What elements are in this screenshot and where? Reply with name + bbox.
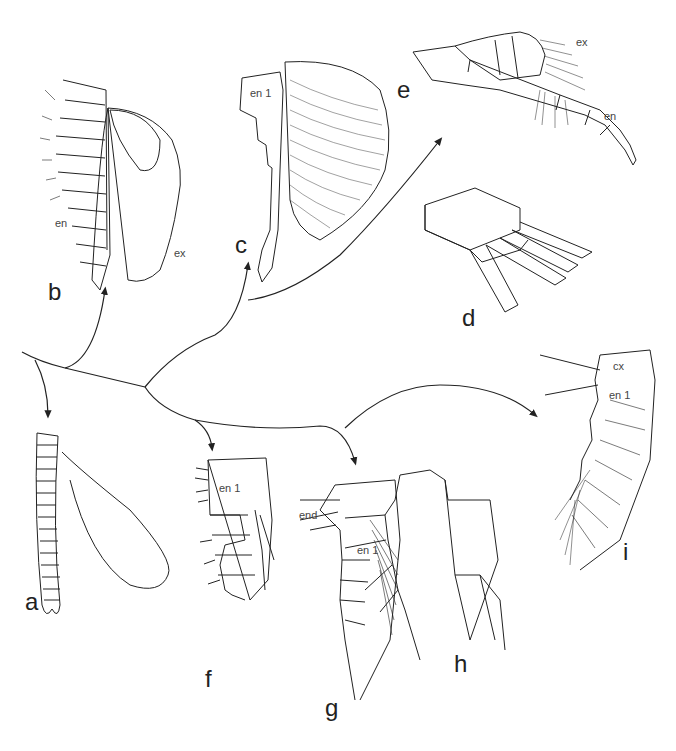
phylogeny-tree bbox=[22, 140, 535, 462]
figure-drawing bbox=[0, 0, 676, 751]
panel-a-drawing bbox=[36, 433, 169, 614]
part-label-i-en1: en 1 bbox=[609, 390, 630, 401]
panel-label-g: g bbox=[325, 696, 338, 720]
part-label-b-ex: ex bbox=[174, 248, 186, 259]
part-label-b-en: en bbox=[55, 218, 67, 229]
part-label-i-cx: cx bbox=[613, 361, 624, 372]
panel-b-drawing bbox=[40, 80, 180, 290]
panel-label-h: h bbox=[454, 652, 467, 676]
panel-f-drawing bbox=[195, 458, 274, 600]
panel-d-drawing bbox=[425, 188, 592, 312]
part-label-e-ex: ex bbox=[576, 37, 588, 48]
panel-h-drawing bbox=[345, 470, 505, 660]
part-label-f-en1: en 1 bbox=[219, 483, 240, 494]
panel-label-b: b bbox=[48, 280, 61, 304]
panel-label-c: c bbox=[235, 233, 247, 257]
part-label-c-en1: en 1 bbox=[250, 88, 271, 99]
part-label-g-en1: en 1 bbox=[357, 545, 378, 556]
panel-label-d: d bbox=[462, 306, 475, 330]
part-label-g-end: end bbox=[299, 510, 317, 521]
panel-label-a: a bbox=[25, 590, 38, 614]
panel-label-i: i bbox=[623, 540, 628, 564]
panel-label-e: e bbox=[397, 78, 410, 102]
part-label-e-en: en bbox=[604, 111, 616, 122]
panel-e-drawing bbox=[413, 32, 636, 165]
panel-label-f: f bbox=[205, 667, 212, 691]
panel-i-drawing bbox=[540, 350, 655, 570]
